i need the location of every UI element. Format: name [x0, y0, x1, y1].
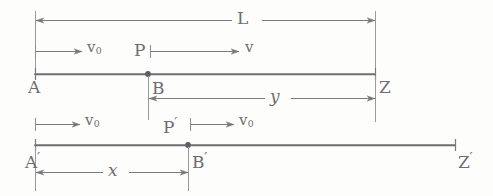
label-point-B: B	[152, 80, 165, 97]
label-v0-lower-left-base: v	[85, 111, 93, 129]
label-v0-lower-right-base: v	[239, 111, 247, 129]
label-P-prime-mark: ′	[174, 114, 177, 130]
arrow-v0-lower-right	[191, 118, 235, 131]
label-velocity-v0-lower-left: v0	[85, 113, 99, 128]
label-velocity-v0-upper: v0	[87, 40, 101, 55]
label-point-A-prime: A′	[25, 150, 40, 171]
rod-AZ-prime	[35, 139, 456, 151]
label-point-A: A	[28, 79, 40, 96]
label-B-prime-mark: ′	[204, 149, 207, 165]
label-v0-upper-subscript: 0	[96, 45, 102, 56]
label-B-prime-base: B	[192, 152, 205, 172]
arrow-v0-lower-left	[36, 118, 81, 131]
dimension-y	[149, 76, 376, 122]
label-point-P: P	[134, 42, 145, 59]
label-P-prime-base: P	[163, 117, 174, 137]
label-velocity-v-upper: v	[245, 40, 253, 55]
arrow-v0-upper	[36, 45, 83, 58]
label-v0-lower-right-subscript: 0	[248, 118, 254, 129]
diagram-canvas: L v0 P v A B Z y v0 P′ v0 A′ B′ Z′ x	[0, 0, 493, 196]
label-v0-upper-base: v	[87, 38, 95, 56]
label-Z-prime-mark: ′	[470, 149, 473, 165]
label-A-prime-mark: ′	[37, 149, 40, 165]
label-point-Z-prime: Z′	[458, 150, 473, 171]
label-length-y: y	[270, 88, 280, 105]
label-point-Z: Z	[379, 79, 391, 96]
label-velocity-v0-lower-right: v0	[239, 113, 253, 128]
label-point-B-prime: B′	[192, 150, 208, 171]
arrow-v-upper	[151, 45, 240, 58]
label-Z-prime-base: Z	[458, 152, 470, 172]
label-length-x: x	[108, 162, 118, 179]
label-length-L: L	[237, 10, 248, 27]
label-v0-lower-left-subscript: 0	[94, 118, 100, 129]
diagram-vector-layer	[0, 0, 493, 196]
label-point-P-prime: P′	[163, 115, 178, 136]
label-A-prime-base: A	[25, 152, 37, 172]
rod-AZ	[35, 68, 376, 80]
